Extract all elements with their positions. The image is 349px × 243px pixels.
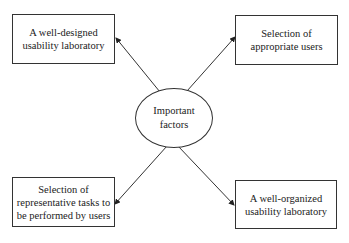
node-well-organized-lab: A well-organized usability laboratory bbox=[235, 180, 337, 229]
node-line: representative tasks to bbox=[17, 196, 111, 209]
arrow-to-bottom-right bbox=[178, 146, 234, 205]
arrow-to-top-left bbox=[116, 38, 160, 92]
center-line: factors bbox=[153, 118, 194, 132]
node-representative-tasks: Selection of representative tasks to be … bbox=[12, 177, 115, 227]
center-node-important-factors: Important factors bbox=[135, 88, 213, 148]
node-line: A well-designed bbox=[23, 26, 105, 39]
arrow-to-top-right bbox=[187, 37, 235, 91]
node-appropriate-users: Selection of appropriate users bbox=[235, 15, 338, 65]
node-line: Selection of bbox=[250, 27, 322, 40]
node-line: A well-organized bbox=[245, 192, 327, 205]
arrow-to-bottom-left bbox=[115, 146, 167, 204]
node-line: Selection of bbox=[17, 183, 111, 196]
node-well-designed-lab: A well-designed usability laboratory bbox=[12, 14, 115, 64]
center-line: Important bbox=[153, 104, 194, 118]
node-line: usability laboratory bbox=[23, 39, 105, 52]
node-line: usability laboratory bbox=[245, 205, 327, 218]
node-line: be performed by users bbox=[17, 209, 111, 222]
node-line: appropriate users bbox=[250, 40, 322, 53]
